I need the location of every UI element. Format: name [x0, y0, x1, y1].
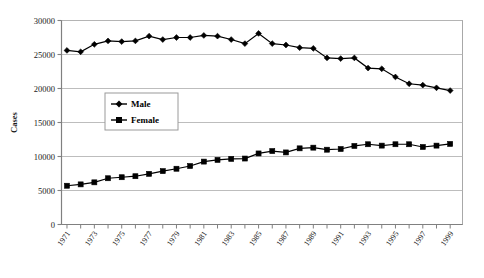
data-point-female — [188, 164, 193, 169]
x-tick-label: 1975 — [110, 229, 127, 247]
x-tick-label: 1991 — [329, 229, 346, 247]
x-axis-ticks — [67, 225, 450, 229]
y-tick-label: 25000 — [34, 50, 55, 60]
data-point-female — [270, 149, 275, 154]
data-point-female — [256, 151, 261, 156]
data-point-female — [92, 180, 97, 185]
data-point-female — [448, 141, 453, 146]
data-point-female — [325, 147, 330, 152]
data-point-female — [420, 144, 425, 149]
data-point-female — [174, 166, 179, 171]
data-point-female — [64, 183, 69, 188]
y-tick-label: 0 — [51, 220, 55, 230]
data-point-female — [147, 171, 152, 176]
y-tick-label: 30000 — [34, 16, 55, 26]
y-tick-label: 5000 — [38, 186, 55, 196]
x-tick-label: 1985 — [247, 229, 264, 247]
data-point-female — [407, 142, 412, 147]
x-tick-label: 1995 — [384, 229, 401, 247]
data-point-female — [297, 146, 302, 151]
chart-container: 050001000015000200002500030000Cases19711… — [0, 0, 484, 278]
x-tick-label: 1971 — [56, 229, 73, 247]
x-tick-label: 1977 — [138, 229, 155, 247]
y-axis-ticks: 050001000015000200002500030000 — [34, 16, 62, 230]
data-point-female — [160, 169, 165, 174]
x-tick-label: 1979 — [165, 229, 182, 247]
data-point-female — [119, 175, 124, 180]
legend-label: Male — [131, 99, 151, 109]
data-point-female — [379, 143, 384, 148]
data-point-female — [106, 176, 111, 181]
x-tick-label: 1981 — [192, 229, 209, 247]
line-chart: 050001000015000200002500030000Cases19711… — [0, 0, 484, 278]
x-tick-label: 1993 — [357, 229, 374, 247]
legend: MaleFemale — [105, 93, 178, 130]
y-tick-label: 20000 — [34, 84, 55, 94]
data-point-female — [393, 142, 398, 147]
data-point-female — [283, 150, 288, 155]
data-point-female — [338, 147, 343, 152]
data-point-female — [434, 143, 439, 148]
x-tick-label: 1989 — [302, 229, 319, 247]
data-point-female — [311, 145, 316, 150]
x-tick-label: 1997 — [411, 229, 428, 247]
y-axis-title: Cases — [9, 111, 19, 132]
x-axis-tick-labels: 1971197319751977197919811983198519871989… — [56, 229, 456, 247]
legend-label: Female — [131, 115, 159, 125]
data-point-female — [229, 156, 234, 161]
y-tick-label: 10000 — [34, 152, 55, 162]
y-tick-label: 15000 — [34, 118, 55, 128]
data-point-female — [215, 157, 220, 162]
data-point-female — [201, 159, 206, 164]
x-tick-label: 1973 — [83, 229, 100, 247]
x-tick-label: 1987 — [275, 229, 292, 247]
data-point-female — [78, 182, 83, 187]
data-point-female — [242, 156, 247, 161]
data-point-female — [366, 142, 371, 147]
x-tick-label: 1999 — [439, 229, 456, 247]
x-tick-label: 1983 — [220, 229, 237, 247]
data-point-female — [352, 143, 357, 148]
legend-marker-square-icon — [116, 117, 122, 123]
data-point-female — [133, 174, 138, 179]
